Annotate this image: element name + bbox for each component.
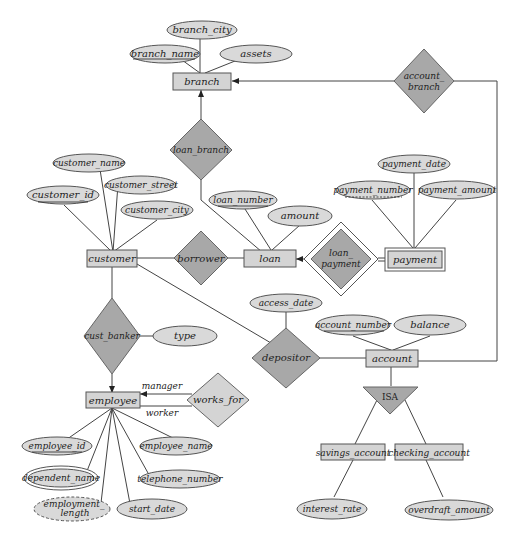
attribute-label: dependent_name <box>22 473 100 484</box>
entity-employee[interactable]: employee <box>86 392 140 408</box>
relationship-label: depositor <box>262 352 311 363</box>
attr-payment-number-partial-key[interactable]: payment_number <box>333 181 413 199</box>
attribute-label: customer_street <box>104 180 178 191</box>
connector-lines <box>60 36 497 509</box>
attr-loan-number-key[interactable]: loan_number <box>209 191 277 209</box>
attr-account-number-key[interactable]: account_number <box>315 315 392 335</box>
attribute-label: amount <box>281 210 320 221</box>
attr-dependent-name-multivalued[interactable]: dependent_name <box>22 466 100 490</box>
relationship-works-for[interactable]: works_for <box>187 373 249 427</box>
entity-label: account <box>372 353 413 364</box>
entity-checking-account[interactable]: checking_account <box>388 444 470 460</box>
attribute-label: payment_date <box>382 159 446 170</box>
entity-label: loan <box>259 253 281 264</box>
attr-customer-id-key[interactable]: customer_id <box>27 186 99 204</box>
attribute-label: loan_number <box>213 195 273 206</box>
isa-label: ISA <box>382 392 399 402</box>
attribute-label: branch_name <box>131 48 200 60</box>
attribute-label: overdraft_amount <box>408 505 490 516</box>
attr-assets[interactable]: assets <box>220 45 292 63</box>
attr-access-date[interactable]: access_date <box>250 294 322 312</box>
attribute-label: customer_id <box>32 189 94 201</box>
relationship-loan-payment-identifying[interactable]: loan_ payment <box>304 222 378 296</box>
relationship-depositor[interactable]: depositor <box>252 328 320 388</box>
relationship-loan-branch[interactable]: loan_branch <box>170 119 232 180</box>
attr-branch-city[interactable]: branch_city <box>167 21 237 39</box>
relationship-borrower[interactable]: borrower <box>174 231 228 285</box>
relationship-label: works_for <box>193 394 244 406</box>
attribute-label: length <box>60 508 89 518</box>
attribute-label: branch_city <box>172 24 231 36</box>
relationship-label: payment <box>321 259 361 269</box>
relationship-label: cust_banker <box>84 331 140 342</box>
attribute-label: interest_rate <box>303 504 362 515</box>
attr-customer-name[interactable]: customer_name <box>53 154 125 172</box>
attribute-label: type <box>174 330 196 341</box>
relationship-label: account_ <box>404 71 445 82</box>
relationship-label: borrower <box>177 253 225 264</box>
attr-employee-name[interactable]: employee_name <box>139 437 212 455</box>
role-manager: manager <box>142 381 183 391</box>
relationship-cust-banker[interactable]: cust_banker <box>84 298 140 374</box>
attr-employment-length-derived[interactable]: employment_ length <box>34 497 110 521</box>
attr-customer-street[interactable]: customer_street <box>104 176 178 194</box>
attr-telephone-number[interactable]: telephone_number <box>137 470 223 488</box>
attribute-label: assets <box>240 48 271 59</box>
attribute-label: customer_name <box>53 158 125 169</box>
entity-label: payment <box>393 254 438 265</box>
attr-customer-city[interactable]: customer_city <box>121 201 193 219</box>
er-diagram: branch customer loan payment employee ac… <box>0 0 519 541</box>
attribute-label: access_date <box>259 298 314 309</box>
relationship-label: branch <box>408 82 440 92</box>
attr-amount[interactable]: amount <box>268 206 332 226</box>
attr-overdraft-amount[interactable]: overdraft_amount <box>405 500 493 520</box>
attribute-label: employee_id <box>29 441 86 452</box>
attr-balance[interactable]: balance <box>394 315 466 335</box>
entity-branch[interactable]: branch <box>173 73 231 90</box>
attr-employee-id-key[interactable]: employee_id <box>22 437 92 455</box>
attr-interest-rate[interactable]: interest_rate <box>297 499 367 519</box>
entity-label: savings_account <box>316 448 391 459</box>
attr-payment-date[interactable]: payment_date <box>378 155 450 173</box>
attribute-label: payment_amount <box>418 185 497 196</box>
attribute-label: employee_name <box>139 441 212 452</box>
attribute-label: payment_number <box>333 185 413 196</box>
attribute-label: balance <box>410 319 450 330</box>
entity-customer[interactable]: customer <box>87 250 137 267</box>
attr-type[interactable]: type <box>153 326 217 346</box>
attribute-label: customer_city <box>125 205 190 216</box>
entity-label: customer <box>88 253 137 264</box>
entity-account[interactable]: account <box>366 350 418 367</box>
relationship-label: loan_ <box>329 248 353 259</box>
attr-start-date[interactable]: start_date <box>117 499 187 519</box>
relationship-account-branch[interactable]: account_ branch <box>394 49 454 113</box>
attribute-label: start_date <box>129 504 175 515</box>
attribute-label: account_number <box>315 320 392 331</box>
attribute-label: telephone_number <box>137 474 223 485</box>
entity-savings-account[interactable]: savings_account <box>316 444 391 460</box>
attr-branch-name-key[interactable]: branch_name <box>130 45 200 63</box>
attr-payment-amount[interactable]: payment_amount <box>418 181 497 199</box>
entity-loan[interactable]: loan <box>244 250 296 267</box>
entity-payment-weak[interactable]: payment <box>385 248 445 271</box>
entity-label: checking_account <box>388 448 470 459</box>
role-worker: worker <box>146 408 179 418</box>
relationship-label: loan_branch <box>173 145 229 156</box>
entity-label: branch <box>184 76 220 87</box>
entity-label: employee <box>89 395 138 406</box>
